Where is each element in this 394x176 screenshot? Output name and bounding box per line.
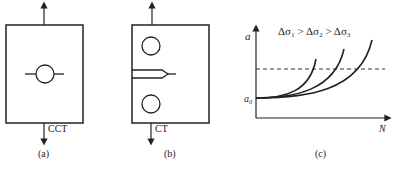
edge-notch [132,70,168,78]
crack-growth-chart [256,28,388,118]
stress-range-annotation: Δσ₁ > Δσ₂ > Δσ₃ [278,25,351,37]
initial-crack-label: a₀ [244,93,253,104]
pin-hole-bottom [142,95,160,113]
center-hole [36,65,54,83]
caption-a: (a) [38,148,49,160]
pin-hole-top [142,37,160,55]
y-axis-label: a [245,30,251,42]
figure-canvas: CCT CT Δσ₁ > Δσ₂ > Δσ₃ a a₀ N (a) (b) (c… [0,0,394,176]
curve-delta-sigma-2 [256,49,344,98]
cct-specimen [6,5,83,142]
x-axis-label: N [378,123,387,134]
caption-c: (c) [315,148,326,160]
cct-label: CCT [48,123,67,134]
ct-specimen [132,5,209,142]
ct-label: CT [155,123,168,134]
curve-delta-sigma-1 [256,59,316,98]
caption-b: (b) [164,148,176,160]
specimen-plate [6,25,83,123]
